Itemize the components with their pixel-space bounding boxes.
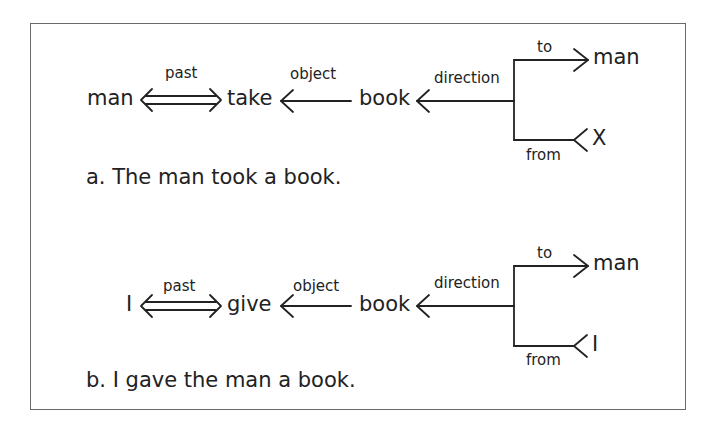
node-from-source-b: I [592, 334, 598, 355]
node-from-source-a: X [592, 128, 606, 149]
object-arrow-a [281, 90, 351, 112]
direction-arrow-b [417, 255, 588, 357]
edge-label-to-a: to [537, 40, 552, 55]
node-object-b: book [359, 294, 410, 315]
edge-label-direction-b: direction [434, 276, 500, 291]
node-verb-b: give [227, 294, 272, 315]
direction-arrow-a [417, 49, 588, 151]
node-to-target-a: man [593, 47, 640, 68]
node-object-a: book [359, 88, 410, 109]
caption-a: a. The man took a book. [86, 167, 341, 188]
node-agent-a: man [87, 88, 134, 109]
edge-label-from-b: from [526, 353, 561, 368]
edge-label-object-a: object [290, 67, 336, 82]
node-verb-a: take [227, 88, 272, 109]
edge-label-past-a: past [165, 66, 197, 81]
edge-label-to-b: to [537, 246, 552, 261]
double-arrow-a [141, 89, 221, 111]
double-arrow-b [141, 295, 221, 317]
edge-label-direction-a: direction [434, 71, 500, 86]
caption-b: b. I gave the man a book. [86, 370, 356, 391]
edge-label-past-b: past [163, 279, 195, 294]
node-to-target-b: man [593, 253, 640, 274]
object-arrow-b [281, 295, 351, 317]
node-agent-b: I [126, 294, 132, 315]
edge-label-object-b: object [293, 279, 339, 294]
edge-label-from-a: from [526, 148, 561, 163]
